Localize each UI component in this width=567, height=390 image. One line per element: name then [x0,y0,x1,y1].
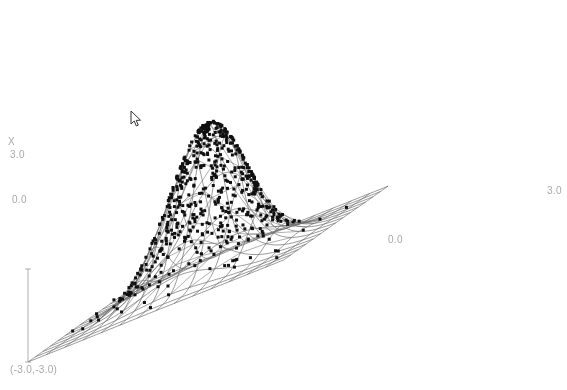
axis-origin-corner-label: (-3.0,-3.0) [10,364,57,375]
axis-tick-horizontal-mid: 0.0 [388,234,403,245]
surface-plot-canvas[interactable] [0,0,567,390]
axis-label-x: X [8,136,15,147]
surface-plot-viewport[interactable]: X 3.0 0.0 0.0 3.0 (-3.0,-3.0) [0,0,567,390]
mouse-pointer-icon [130,110,142,128]
axis-tick-horizontal-right: 3.0 [547,185,562,196]
axis-tick-vertical-top: 3.0 [10,149,25,160]
axis-tick-vertical-mid: 0.0 [12,194,27,205]
